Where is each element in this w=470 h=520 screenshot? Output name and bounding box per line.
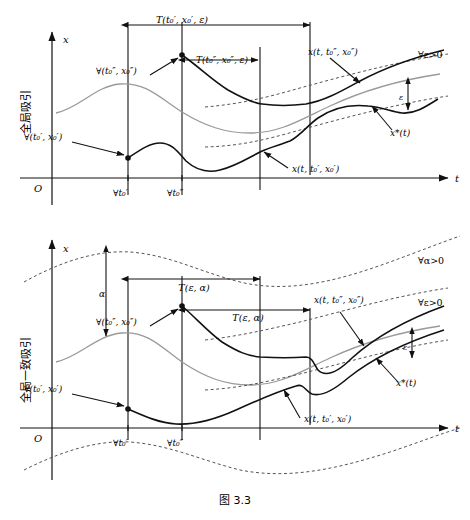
- bottom-span-outer-label: T(ε, α): [178, 282, 210, 293]
- top-origin-label: O: [34, 183, 42, 194]
- figure-caption: 图 3.3: [219, 494, 251, 507]
- bottom-leader-low: [72, 394, 124, 406]
- bottom-band-alpha-label: ∀α>0: [418, 255, 444, 266]
- bottom-point-high-label: ∀(t₀″, x₀″): [96, 317, 137, 327]
- panel-bottom: [20, 236, 460, 480]
- panel-top: [20, 22, 448, 205]
- bottom-curve-upper-label: x(t, t₀″, x₀″): [314, 295, 364, 305]
- bottom-leader-upper-curve: [340, 312, 364, 346]
- bottom-y-axis-label: x: [63, 243, 69, 254]
- top-band-lower: [205, 96, 448, 147]
- bottom-initial-point-high: [179, 303, 185, 309]
- top-y-axis-label: x: [63, 34, 69, 45]
- bottom-initial-point-low: [125, 406, 131, 412]
- bottom-epsilon-label: ε: [403, 343, 407, 352]
- top-span-outer-label: T(t₀′, x₀′, ε): [156, 14, 208, 25]
- top-x-axis-label: t: [455, 173, 460, 184]
- top-tick-label-2: ∀t₀″: [167, 188, 184, 198]
- bottom-leader-equilibrium: [376, 358, 398, 382]
- bottom-trajectory-upper: [182, 306, 444, 374]
- bottom-curve-lower-label: x(t, t₀′, x₀′): [304, 414, 352, 424]
- top-leader-high: [150, 58, 178, 75]
- top-leader-upper-curve: [330, 58, 360, 83]
- top-leader-low: [72, 142, 124, 155]
- diagram-canvas: x t O ∀t₀′ ∀t₀″ T(t₀′, x₀′, ε) T(t₀″, x₀…: [0, 0, 470, 520]
- top-curve-lower-label: x(t, t₀′, x₀′): [292, 164, 340, 174]
- bottom-side-label: 全局一致吸引: [19, 337, 33, 403]
- top-leader-lower-curve: [264, 152, 288, 168]
- top-side-label: 全局吸引: [19, 90, 33, 134]
- top-initial-point-low: [125, 155, 131, 161]
- bottom-band-alpha-lower: [24, 428, 460, 474]
- figure-3-3: x t O ∀t₀′ ∀t₀″ T(t₀′, x₀′, ε) T(t₀″, x₀…: [0, 0, 470, 520]
- top-band-label: ∀ε>0: [418, 49, 443, 60]
- bottom-equilibrium-label: x*(t): [396, 378, 417, 388]
- bottom-band-eps-label: ∀ε>0: [418, 297, 443, 308]
- bottom-tick-label-2: ∀t₀″: [167, 438, 184, 448]
- top-equilibrium-label: x*(t): [390, 128, 411, 138]
- top-point-high-label: ∀(t₀″, x₀″): [96, 66, 137, 76]
- top-tick-label-1: ∀t₀′: [113, 188, 128, 198]
- top-curve-upper-label: x(t, t₀″, x₀″): [308, 47, 358, 57]
- top-equilibrium-curve: [56, 74, 440, 133]
- bottom-leader-lower-curve: [284, 390, 300, 418]
- bottom-origin-label: O: [34, 433, 42, 444]
- bottom-alpha-label: α: [99, 289, 105, 299]
- bottom-leader-high: [150, 309, 178, 326]
- bottom-span-inner-label: T(ε, α): [232, 312, 264, 323]
- top-epsilon-label: ε: [399, 93, 403, 102]
- top-initial-point-high: [179, 52, 185, 58]
- top-span-inner-label: T(t₀″, x₀″, ε): [196, 55, 248, 65]
- bottom-tick-label-1: ∀t₀′: [113, 438, 128, 448]
